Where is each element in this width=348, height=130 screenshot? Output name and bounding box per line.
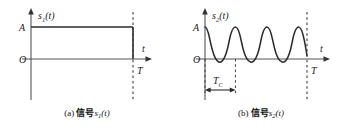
panel-b-tc-arrow-head-left	[205, 88, 211, 93]
panel-a-rectangular-pulse: s1(t) A O t T (a) 信号s1(t)	[0, 0, 174, 130]
panel-b-caption: (b) 信号s2(t)	[174, 106, 348, 119]
panel-a-y-axis-arrow	[28, 8, 34, 15]
panel-b-y-axis-arrow	[202, 8, 208, 15]
panel-b-signal-label: s2(t)	[212, 10, 229, 23]
panel-b-carrier-wave: s2(t) A O t T TC (b) 信号s2(t)	[174, 0, 348, 130]
panel-a-period-label: T	[137, 65, 144, 76]
panel-a-x-axis-label: t	[142, 43, 145, 54]
panel-a-origin-label: O	[19, 54, 26, 65]
panel-a-caption-cn: 信号	[76, 108, 94, 118]
panel-b-caption-cn: 信号	[251, 108, 269, 118]
panel-a-amplitude-label: A	[18, 22, 26, 33]
panel-b-origin-label: O	[193, 54, 200, 65]
panel-a-x-axis-arrow	[146, 56, 153, 61]
panel-b-tc-arrow-head-right	[230, 88, 236, 93]
panel-b-amplitude-label: A	[192, 22, 200, 33]
signal-figure: s1(t) A O t T (a) 信号s1(t)	[0, 0, 348, 130]
panel-b-caption-arg: (t)	[276, 108, 285, 118]
panel-b-caption-prefix: (b)	[238, 108, 249, 118]
panel-b-period-label: T	[311, 65, 318, 76]
panel-a-plot: s1(t) A O t T	[0, 0, 174, 108]
panel-b-plot: s2(t) A O t T TC	[174, 0, 348, 108]
panel-a-signal-label: s1(t)	[38, 10, 55, 23]
panel-b-x-axis-arrow	[324, 56, 331, 61]
panel-a-caption-prefix: (a)	[64, 108, 74, 118]
panel-a-caption-arg: (t)	[101, 108, 110, 118]
panel-b-carrier-period-label: TC	[213, 75, 224, 88]
panel-b-carrier-waveform	[205, 27, 307, 62]
panel-b-x-axis-label: t	[320, 43, 323, 54]
panel-a-caption: (a) 信号s1(t)	[0, 106, 174, 119]
